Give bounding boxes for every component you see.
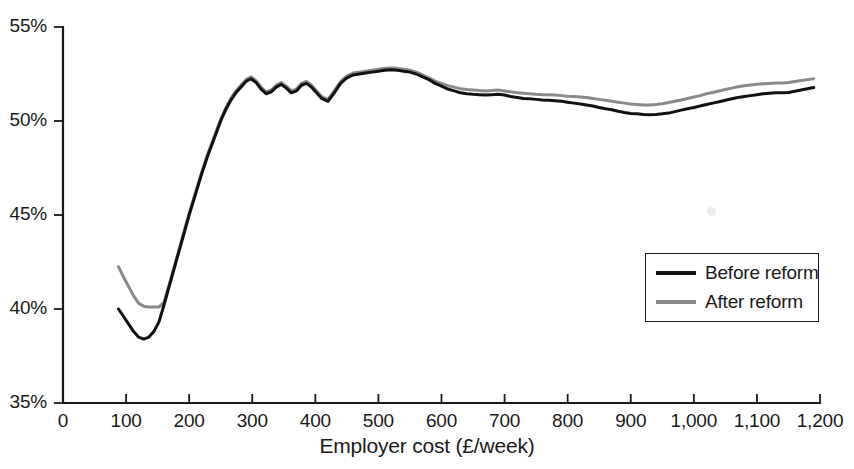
legend-entry-before-reform: Before reform [656,260,819,286]
legend-label-after-reform: After reform [705,291,803,313]
plot-area [0,0,854,469]
x-tick-label: 1,200 [780,410,854,432]
y-tick-label: 40% [0,297,47,319]
chart-container: 35%40%45%50%55% 010020030040050060070080… [0,0,854,469]
line-swatch-gray-icon [656,300,696,304]
y-tick-label: 55% [0,15,47,37]
legend-entry-after-reform: After reform [656,289,803,315]
legend-label-before-reform: Before reform [705,262,819,284]
y-tick-label: 45% [0,203,47,225]
y-tick-label: 50% [0,109,47,131]
scan-artifact [707,207,716,216]
x-axis-ticks [63,394,820,403]
y-axis-ticks [54,27,63,403]
x-axis-title: Employer cost (£/week) [0,434,854,458]
legend: Before reform After reform [645,253,819,322]
line-swatch-black-icon [656,271,696,275]
